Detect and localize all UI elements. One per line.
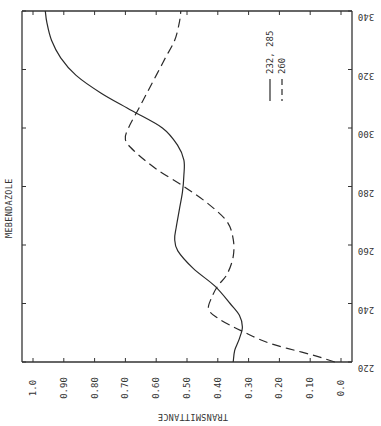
transmittance-tick-label: 0.70 xyxy=(120,377,130,399)
legend-label-solid: 232, 285 xyxy=(265,31,275,74)
wavelength-tick-label: 300 xyxy=(358,129,374,139)
legend-label-dashed: 260 xyxy=(277,58,287,74)
transmittance-tick-label: 0.90 xyxy=(59,377,69,399)
transmittance-tick-label: 0.60 xyxy=(151,377,161,399)
transmittance-tick-label: 0.30 xyxy=(244,377,254,399)
transmittance-tick-label: 0.20 xyxy=(274,377,284,399)
transmittance-tick-label: 0.50 xyxy=(182,377,192,399)
series-260-dashed-line xyxy=(125,11,335,362)
axis-tick-labels: 1.00.900.800.700.600.500.400.300.200.100… xyxy=(28,12,374,399)
transmittance-tick-label: 0.10 xyxy=(305,377,315,399)
wavelength-tick-label: 240 xyxy=(358,305,374,315)
transmittance-chart: 1.00.900.800.700.600.500.400.300.200.100… xyxy=(0,0,381,426)
plot-frame xyxy=(22,11,352,362)
chart-title: MEBENDAZOLE xyxy=(4,178,14,238)
axis-ticks xyxy=(22,11,352,362)
y-axis-title: TRANSMITTANCE xyxy=(158,412,228,422)
wavelength-tick-label: 340 xyxy=(358,12,374,22)
wavelength-tick-label: 280 xyxy=(358,188,374,198)
transmittance-tick-label: 0.80 xyxy=(90,377,100,399)
wavelength-tick-label: 220 xyxy=(358,363,374,373)
legend: 232, 285 260 xyxy=(265,31,287,101)
transmittance-tick-label: 1.0 xyxy=(28,380,38,396)
transmittance-tick-label: 0.0 xyxy=(336,380,346,396)
wavelength-tick-label: 320 xyxy=(358,71,374,81)
wavelength-tick-label: 260 xyxy=(358,246,374,256)
series-232-285-solid-line xyxy=(45,11,242,362)
transmittance-tick-label: 0.40 xyxy=(213,377,223,399)
